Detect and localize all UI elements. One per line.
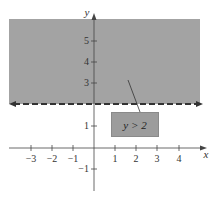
x-axis-label: x: [203, 148, 209, 160]
y-axis-label: y: [84, 6, 90, 18]
x-tick-label: −1: [68, 153, 79, 164]
x-tick-label: −2: [47, 153, 58, 164]
callout-text: y > 2: [123, 119, 146, 131]
x-tick-label: 3: [155, 153, 160, 164]
inequality-callout: y > 2: [111, 112, 159, 137]
inequality-graph: −3 −2 −1 1 2 3 4 5 4 3 1 −1 x y: [0, 0, 216, 201]
x-tick-label: 4: [177, 153, 182, 164]
y-tick-label: 4: [84, 56, 89, 67]
y-tick-label: 1: [84, 120, 89, 131]
shaded-region: [9, 19, 200, 104]
y-axis-arrow-icon: [92, 13, 97, 20]
y-tick-label: −1: [78, 163, 89, 174]
y-tick-label: 3: [84, 77, 89, 88]
y-tick-label: 5: [84, 35, 89, 46]
x-tick-label: 2: [134, 153, 139, 164]
x-tick-label: 1: [113, 153, 118, 164]
x-tick-label: −3: [26, 153, 37, 164]
